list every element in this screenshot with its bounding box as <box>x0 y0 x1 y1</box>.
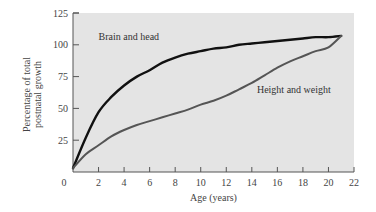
chart: 0246810121416182022 255075100125 Brain a… <box>0 0 376 212</box>
x-tick-label: 0 <box>62 177 67 188</box>
y-tick-label: 75 <box>58 71 68 82</box>
y-axis-title: Percentage of totalpostnatal growth <box>21 57 43 132</box>
x-tick-label: 20 <box>323 177 333 188</box>
x-tick-label: 8 <box>173 177 178 188</box>
annotation-height-and-weight: Height and weight <box>257 84 331 95</box>
y-tick-label: 100 <box>53 39 68 50</box>
x-tick-label: 16 <box>272 177 282 188</box>
y-tick-label: 50 <box>58 103 68 114</box>
x-axis-title: Age (years) <box>190 192 237 204</box>
x-tick-label: 12 <box>221 177 231 188</box>
x-tick-label: 10 <box>196 177 206 188</box>
x-tick-label: 18 <box>298 177 308 188</box>
x-tick-label: 22 <box>349 177 359 188</box>
x-tick-label: 6 <box>147 177 152 188</box>
x-tick-label: 14 <box>247 177 257 188</box>
annotation-brain-and-head: Brain and head <box>99 31 160 42</box>
y-axis-title-line: postnatal growth <box>32 61 43 128</box>
y-tick-label: 25 <box>58 135 68 146</box>
y-tick-label: 125 <box>53 8 68 19</box>
x-tick-label: 2 <box>96 177 101 188</box>
y-axis-title-line: Percentage of total <box>21 57 32 132</box>
x-tick-label: 4 <box>122 177 127 188</box>
